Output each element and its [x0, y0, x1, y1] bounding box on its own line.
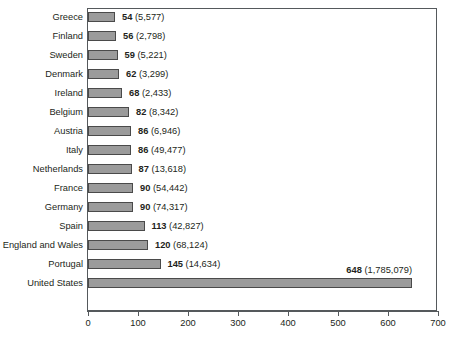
bar-value-count: (2,433)	[139, 88, 171, 98]
bar-value-count: (3,299)	[136, 69, 168, 79]
bar-value-label: 87 (13,618)	[139, 160, 187, 179]
bar-value-label: 68 (2,433)	[129, 84, 171, 103]
bar-value-count: (5,577)	[132, 12, 164, 22]
category-label: Austria	[0, 122, 83, 141]
x-tick-label: 500	[318, 318, 358, 328]
bar	[88, 126, 131, 136]
bar-value-rate: 86	[138, 145, 148, 155]
bar-value-label: 90 (54,442)	[140, 179, 188, 198]
x-tick-mark	[138, 311, 139, 316]
bar-value-label: 82 (8,342)	[136, 103, 178, 122]
bar-value-label: 120 (68,124)	[155, 236, 208, 255]
table-row: Spain113 (42,827)	[0, 217, 453, 236]
bar-value-count: (68,124)	[171, 240, 208, 250]
bar	[88, 164, 132, 174]
table-row: Germany90 (74,317)	[0, 198, 453, 217]
table-row: Belgium82 (8,342)	[0, 103, 453, 122]
bar-value-rate: 59	[125, 50, 135, 60]
table-row: Finland56 (2,798)	[0, 27, 453, 46]
x-tick-mark	[438, 311, 439, 316]
bar	[88, 88, 122, 98]
x-tick-label: 300	[218, 318, 258, 328]
table-row: Sweden59 (5,221)	[0, 46, 453, 65]
bar	[88, 183, 133, 193]
bar-value-rate: 87	[139, 164, 149, 174]
table-row: Netherlands87 (13,618)	[0, 160, 453, 179]
table-row: England and Wales120 (68,124)	[0, 236, 453, 255]
category-label: Germany	[0, 198, 83, 217]
bar	[88, 202, 133, 212]
category-label: Italy	[0, 141, 83, 160]
bar-value-count: (42,827)	[167, 221, 204, 231]
bar-value-rate: 90	[140, 202, 150, 212]
x-tick-label: 200	[168, 318, 208, 328]
bar-value-rate: 90	[140, 183, 150, 193]
category-label: United States	[0, 274, 83, 293]
bar	[88, 69, 119, 79]
bar-value-count: (14,634)	[183, 259, 220, 269]
bar-value-rate: 68	[129, 88, 139, 98]
bar-value-count: (6,946)	[148, 126, 180, 136]
bar-chart: Greece54 (5,577)Finland56 (2,798)Sweden5…	[0, 0, 453, 347]
bar	[88, 221, 145, 231]
category-label: Finland	[0, 27, 83, 46]
category-label: Denmark	[0, 65, 83, 84]
bar-value-rate: 82	[136, 107, 146, 117]
bar	[88, 107, 129, 117]
table-row: Austria86 (6,946)	[0, 122, 453, 141]
table-row: Greece54 (5,577)	[0, 8, 453, 27]
bar	[88, 240, 148, 250]
bar-value-rate: 120	[155, 240, 171, 250]
bar-value-count: (2,798)	[133, 31, 165, 41]
bar-value-rate: 54	[122, 12, 132, 22]
bar-value-rate: 86	[138, 126, 148, 136]
category-label: Greece	[0, 8, 83, 27]
bar-value-label: 113 (42,827)	[152, 217, 204, 236]
x-tick-mark	[238, 311, 239, 316]
x-tick-mark	[88, 311, 89, 316]
bar-value-count: (5,221)	[135, 50, 167, 60]
category-label: Ireland	[0, 84, 83, 103]
bar-value-label: 86 (49,477)	[138, 141, 186, 160]
category-label: Netherlands	[0, 160, 83, 179]
table-row: France90 (54,442)	[0, 179, 453, 198]
bar-value-count: (13,618)	[149, 164, 186, 174]
bar-value-rate: 113	[152, 221, 167, 231]
bar-value-count: (8,342)	[146, 107, 178, 117]
x-tick-mark	[338, 311, 339, 316]
category-label: England and Wales	[0, 236, 83, 255]
table-row: United States648 (1,785,079)	[0, 274, 453, 293]
bar	[88, 50, 118, 60]
category-label: Spain	[0, 217, 83, 236]
bar	[88, 31, 116, 41]
bar	[88, 145, 131, 155]
bar-value-count: (1,785,079)	[362, 265, 412, 275]
category-label: Portugal	[0, 255, 83, 274]
bar-value-label: 90 (74,317)	[140, 198, 188, 217]
x-tick-label: 700	[418, 318, 453, 328]
bar-rows-container: Greece54 (5,577)Finland56 (2,798)Sweden5…	[0, 8, 453, 311]
table-row: Ireland68 (2,433)	[0, 84, 453, 103]
bar-value-label: 56 (2,798)	[123, 27, 165, 46]
x-axis-line	[87, 311, 438, 312]
x-tick-label: 0	[68, 318, 108, 328]
bar	[88, 259, 161, 269]
bar-value-rate: 648	[346, 265, 362, 275]
bar-value-label: 54 (5,577)	[122, 8, 164, 27]
x-tick-label: 100	[118, 318, 158, 328]
bar-value-count: (54,442)	[150, 183, 187, 193]
category-label: Sweden	[0, 46, 83, 65]
bar-value-rate: 62	[126, 69, 136, 79]
x-tick-label: 600	[368, 318, 408, 328]
bar-value-rate: 145	[168, 259, 184, 269]
x-tick-mark	[288, 311, 289, 316]
category-label: Belgium	[0, 103, 83, 122]
bar-value-label: 145 (14,634)	[168, 255, 221, 274]
bar-value-count: (74,317)	[150, 202, 187, 212]
bar-value-rate: 56	[123, 31, 133, 41]
bar-value-label: 62 (3,299)	[126, 65, 168, 84]
bar-value-label: 648 (1,785,079)	[346, 261, 412, 280]
bar-value-label: 59 (5,221)	[125, 46, 167, 65]
category-label: France	[0, 179, 83, 198]
table-row: Italy86 (49,477)	[0, 141, 453, 160]
